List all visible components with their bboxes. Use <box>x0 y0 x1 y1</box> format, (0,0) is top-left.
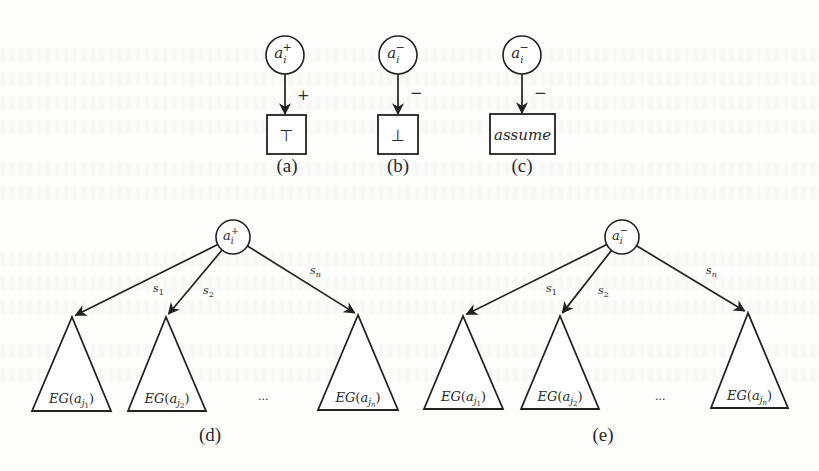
strategy-edge-arrow <box>169 250 223 314</box>
panel-d: s1EG(aj1)s2EG(aj2)snEG(ajn)ai+...(d) <box>32 220 398 446</box>
strategy-edge-arrow <box>637 246 745 311</box>
ellipsis-more-subtrees: ... <box>258 390 269 403</box>
edge-label-strategy: sn <box>310 264 321 279</box>
panel-b: ai− − ⊥ (b) <box>378 36 423 177</box>
leaf-label-top: ⊤ <box>280 126 294 145</box>
panel-caption: (a) <box>276 155 297 177</box>
strategy-edge-arrow <box>467 245 607 315</box>
panel-caption: (c) <box>511 155 532 177</box>
panel-a: ai+ + ⊤ (a) <box>266 36 310 177</box>
edge-label-strategy: s1 <box>546 282 557 297</box>
edge-sign-label: − <box>410 84 423 102</box>
panel-caption: (e) <box>592 424 613 446</box>
strategy-edge-arrow <box>247 246 354 313</box>
strategy-edge-arrow <box>562 250 611 312</box>
leaf-label-assume: assume <box>494 126 551 144</box>
edge-label-strategy: s2 <box>598 284 609 299</box>
diagram-svg: ai+ + ⊤ (a) ai− − ⊥ (b) ai− − <box>0 0 819 471</box>
ellipsis-more-subtrees: ... <box>655 390 666 403</box>
figure-canvas: ai+ + ⊤ (a) ai− − ⊥ (b) ai− − <box>0 0 819 471</box>
panel-c: ai− − assume (c) <box>490 36 555 177</box>
edge-label-strategy: sn <box>706 264 717 279</box>
panel-caption: (b) <box>387 155 409 177</box>
panel-e: s1EG(aj1)s2EG(aj2)snEG(ajn)ai−...(e) <box>424 220 788 446</box>
leaf-label-bottom: ⊥ <box>391 126 405 145</box>
edge-sign-label: + <box>297 86 310 104</box>
edge-label-strategy: s1 <box>153 282 164 297</box>
panel-caption: (d) <box>199 424 221 446</box>
edge-label-strategy: s2 <box>203 284 214 299</box>
edge-sign-label: − <box>534 84 547 102</box>
